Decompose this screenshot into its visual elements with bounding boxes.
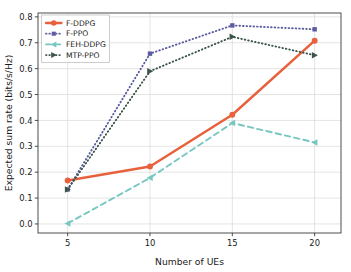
x-tick-label: 15 <box>227 238 238 248</box>
y-tick-label: 0.2 <box>19 167 32 177</box>
y-tick-label: 0.6 <box>19 64 32 74</box>
y-axis-title: Expected sum rate (bits/s/Hz) <box>3 55 14 192</box>
y-tick-label: 0.8 <box>19 12 32 22</box>
legend-label-f-ddpg: F-DDPG <box>66 19 95 28</box>
y-tick-label: 0.7 <box>19 38 32 48</box>
x-axis-title: Number of UEs <box>155 256 224 267</box>
legend-label-f-ppo: F-PPO <box>66 29 88 38</box>
x-tick-label: 10 <box>145 238 156 248</box>
y-tick-label: 0.1 <box>19 193 32 203</box>
x-tick-label: 20 <box>309 238 320 248</box>
x-tick-label: 5 <box>65 238 70 248</box>
data-point-marker <box>51 20 57 26</box>
chart-legend[interactable]: F-DDPGF-PPOFEH-DDPGMTP-PPO <box>42 15 110 63</box>
data-point-marker <box>65 178 71 184</box>
legend-label-mtp-ppo: MTP-PPO <box>66 51 100 60</box>
data-point-marker <box>312 27 316 31</box>
data-point-marker <box>147 164 153 170</box>
y-tick-label: 0.4 <box>19 116 32 126</box>
data-point-marker <box>229 112 235 118</box>
line-chart: 5101520 0.00.10.20.30.40.50.60.70.8 Numb… <box>0 0 351 272</box>
legend-label-feh-ddpg: FEH-DDPG <box>66 40 106 49</box>
y-tick-label: 0.0 <box>19 219 32 229</box>
data-point-marker <box>312 38 318 44</box>
y-tick-label: 0.5 <box>19 90 32 100</box>
y-tick-label: 0.3 <box>19 141 32 151</box>
data-point-marker <box>230 23 234 27</box>
data-point-marker <box>52 32 56 36</box>
data-point-marker <box>148 51 152 55</box>
figure-canvas: 5101520 0.00.10.20.30.40.50.60.70.8 Numb… <box>0 0 351 272</box>
